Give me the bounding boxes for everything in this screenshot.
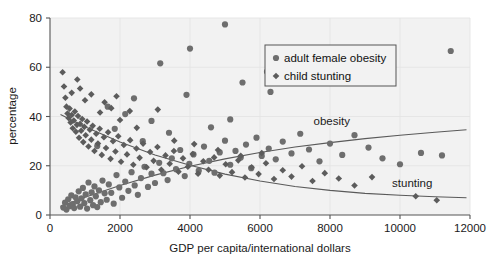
point-obesity [116, 184, 122, 190]
point-obesity [418, 150, 424, 156]
point-obesity [113, 172, 119, 178]
point-obesity [135, 192, 141, 198]
point-obesity [148, 171, 154, 177]
y-tick-label: 80 [29, 12, 42, 24]
point-obesity [306, 146, 312, 152]
point-obesity [316, 158, 322, 164]
point-obesity [85, 179, 91, 185]
point-obesity [232, 148, 238, 154]
point-obesity [297, 131, 303, 137]
point-obesity [84, 206, 90, 212]
point-obesity [327, 140, 333, 146]
point-obesity [239, 79, 245, 85]
x-tick-label: 8000 [317, 222, 343, 234]
y-tick-label: 40 [29, 111, 42, 123]
point-obesity [201, 143, 207, 149]
point-obesity [351, 132, 357, 138]
y-axis-title: percentage [6, 87, 18, 145]
point-obesity [169, 155, 175, 161]
point-obesity [206, 158, 212, 164]
y-tick-label: 20 [29, 160, 42, 172]
point-obesity [448, 48, 454, 54]
x-axis-ticks: 020004000600080001000012000 [47, 215, 486, 234]
point-obesity [119, 195, 125, 201]
point-obesity [182, 173, 188, 179]
point-obesity [98, 199, 104, 205]
point-obesity [128, 169, 134, 175]
point-obesity [99, 177, 105, 183]
point-obesity [211, 170, 217, 176]
legend-label-0[interactable]: adult female obesity [284, 52, 387, 64]
point-obesity [131, 95, 137, 101]
x-tick-label: 4000 [177, 222, 203, 234]
point-obesity [80, 185, 86, 191]
point-obesity [96, 187, 102, 193]
point-obesity [152, 180, 158, 186]
x-tick-label: 10000 [384, 222, 416, 234]
point-obesity [106, 181, 112, 187]
point-obesity [397, 161, 403, 167]
point-obesity [83, 191, 89, 197]
point-obesity [267, 89, 273, 95]
point-obesity [365, 144, 371, 150]
point-obesity [132, 182, 138, 188]
point-obesity [243, 141, 249, 147]
point-obesity [208, 124, 214, 130]
point-obesity [288, 150, 294, 156]
point-obesity [227, 116, 233, 122]
x-tick-label: 6000 [247, 222, 273, 234]
point-obesity [177, 147, 183, 153]
scatter-plot: 020004000600080001000012000 020406080 GD… [0, 0, 499, 264]
point-obesity [125, 188, 131, 194]
point-obesity [145, 184, 151, 190]
point-obesity [111, 201, 117, 207]
curve-label-obesity: obesity [314, 115, 351, 127]
point-obesity [339, 152, 345, 158]
x-tick-label: 12000 [454, 222, 486, 234]
y-axis-ticks: 020406080 [29, 12, 50, 221]
point-obesity [379, 155, 385, 161]
point-obesity [280, 139, 286, 145]
point-obesity [222, 138, 228, 144]
point-obesity [156, 160, 162, 166]
legend-label-1[interactable]: child stunting [284, 70, 351, 82]
legend-marker-circle [273, 55, 279, 61]
x-tick-label: 0 [47, 222, 53, 234]
point-obesity [165, 177, 171, 183]
point-obesity [138, 175, 144, 181]
point-obesity [71, 205, 77, 211]
point-obesity [266, 145, 272, 151]
point-obesity [112, 126, 118, 132]
point-obesity [253, 135, 259, 141]
point-obesity [81, 200, 87, 206]
point-obesity [148, 118, 154, 124]
point-obesity [273, 156, 279, 162]
point-obesity [157, 60, 163, 66]
point-obesity [108, 190, 114, 196]
x-axis-title: GDP per capita/international dollars [169, 242, 351, 254]
point-obesity [93, 193, 99, 199]
point-obesity [122, 178, 128, 184]
curve-label-stunting: stunting [392, 177, 432, 189]
point-obesity [439, 152, 445, 158]
point-obesity [222, 21, 228, 27]
point-obesity [187, 45, 193, 51]
point-obesity [183, 92, 189, 98]
legend[interactable]: adult female obesitychild stunting [265, 45, 396, 86]
point-obesity [166, 130, 172, 136]
point-obesity [102, 190, 108, 196]
x-tick-label: 2000 [107, 222, 133, 234]
point-obesity [104, 197, 110, 203]
y-tick-label: 60 [29, 61, 42, 73]
chart-figure: 020004000600080001000012000 020406080 GD… [0, 0, 499, 264]
y-tick-label: 0 [36, 209, 42, 221]
